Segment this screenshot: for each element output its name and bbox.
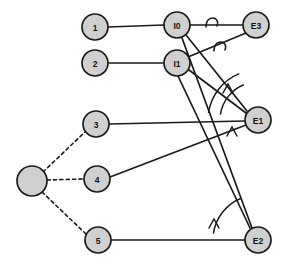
node-hub-circle[interactable] xyxy=(17,166,47,196)
edge-hub-to-n5 xyxy=(42,192,86,234)
edge-hub-to-n4 xyxy=(47,179,84,180)
graph-diagram: 12345I0I1E3E1E2 xyxy=(0,0,286,265)
node-n1[interactable]: 1 xyxy=(82,14,108,40)
node-n1-circle[interactable] xyxy=(82,14,108,40)
node-n5-circle[interactable] xyxy=(85,227,111,253)
node-n3-circle[interactable] xyxy=(83,111,109,137)
node-i1[interactable]: I1 xyxy=(164,50,190,76)
node-n4-circle[interactable] xyxy=(84,166,110,192)
angle-e1-upper-marker xyxy=(209,74,240,113)
edge-i1-to-e2 xyxy=(178,76,250,228)
node-n2-circle[interactable] xyxy=(82,50,108,76)
edges-layer xyxy=(42,25,252,240)
angle-e2-large-arc xyxy=(213,198,241,233)
edge-hub-to-n3 xyxy=(43,131,86,172)
node-n5[interactable]: 5 xyxy=(85,227,111,253)
node-e2[interactable]: E2 xyxy=(245,227,271,253)
edge-i0-to-e2 xyxy=(182,38,252,228)
edge-n4-to-e1 xyxy=(110,125,246,177)
angle-e1-upper-arc xyxy=(209,74,240,113)
node-e3[interactable]: E3 xyxy=(243,12,269,38)
node-e1[interactable]: E1 xyxy=(245,107,271,133)
angle-e1-lower-arc xyxy=(220,85,243,115)
diagram-canvas: 12345I0I1E3E1E2 xyxy=(0,0,286,265)
node-e1-circle[interactable] xyxy=(245,107,271,133)
node-i0-circle[interactable] xyxy=(164,12,190,38)
edge-n3-to-e1 xyxy=(109,121,245,124)
edge-i1-to-e3 xyxy=(188,33,246,57)
node-e3-circle[interactable] xyxy=(243,12,269,38)
node-hub[interactable] xyxy=(17,166,47,196)
angle-e2-large-marker xyxy=(209,198,241,233)
node-n2[interactable]: 2 xyxy=(82,50,108,76)
node-e2-circle[interactable] xyxy=(245,227,271,253)
node-n4[interactable]: 4 xyxy=(84,166,110,192)
node-n3[interactable]: 3 xyxy=(83,111,109,137)
edge-n1-to-i0 xyxy=(108,25,164,27)
node-i1-circle[interactable] xyxy=(164,50,190,76)
nodes-layer: 12345I0I1E3E1E2 xyxy=(17,12,271,253)
node-i0[interactable]: I0 xyxy=(164,12,190,38)
